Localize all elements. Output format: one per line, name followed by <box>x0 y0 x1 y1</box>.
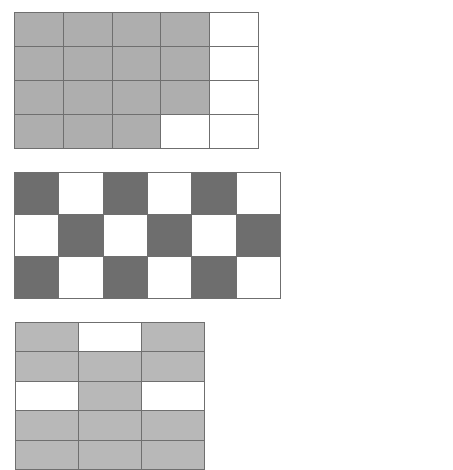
unshaded-cell <box>161 115 210 149</box>
shaded-cell <box>237 215 281 257</box>
shaded-cell <box>64 81 113 115</box>
shaded-cell <box>15 173 59 215</box>
shaded-cell <box>148 215 192 257</box>
unshaded-cell <box>15 215 59 257</box>
shaded-cell <box>64 115 113 149</box>
shaded-cell <box>15 81 64 115</box>
shaded-cell <box>79 382 142 411</box>
shaded-cell <box>16 352 79 381</box>
shaded-cell <box>15 115 64 149</box>
shaded-cell <box>161 81 210 115</box>
shaded-cell <box>113 13 162 47</box>
shaded-cell <box>113 115 162 149</box>
shaded-cell <box>142 323 205 352</box>
unshaded-cell <box>59 173 103 215</box>
shaded-cell <box>16 323 79 352</box>
shaded-cell <box>142 352 205 381</box>
unshaded-cell <box>210 115 259 149</box>
shaded-cell <box>192 257 236 299</box>
grid-6x3-dark-grey-checkerboard <box>14 172 281 299</box>
shaded-cell <box>142 411 205 440</box>
shaded-cell <box>15 47 64 81</box>
shaded-cell <box>113 81 162 115</box>
unshaded-cell <box>142 382 205 411</box>
shaded-cell <box>79 441 142 470</box>
shaded-cell <box>64 47 113 81</box>
shaded-cell <box>59 215 103 257</box>
shaded-cell <box>79 411 142 440</box>
unshaded-cell <box>237 257 281 299</box>
unshaded-cell <box>148 173 192 215</box>
shaded-cell <box>192 173 236 215</box>
unshaded-cell <box>104 215 148 257</box>
unshaded-cell <box>210 81 259 115</box>
unshaded-cell <box>210 13 259 47</box>
shaded-cell <box>142 441 205 470</box>
shaded-cell <box>16 411 79 440</box>
shaded-cell <box>15 257 59 299</box>
shaded-cell <box>104 173 148 215</box>
grid-5x4-medium-grey <box>14 12 259 149</box>
grid-3x5-light-grey <box>15 322 205 470</box>
unshaded-cell <box>192 215 236 257</box>
unshaded-cell <box>79 323 142 352</box>
shaded-cell <box>161 47 210 81</box>
shaded-cell <box>104 257 148 299</box>
shaded-cell <box>16 441 79 470</box>
unshaded-cell <box>16 382 79 411</box>
shaded-cell <box>161 13 210 47</box>
unshaded-cell <box>59 257 103 299</box>
shaded-cell <box>64 13 113 47</box>
shaded-cell <box>15 13 64 47</box>
shaded-cell <box>113 47 162 81</box>
unshaded-cell <box>148 257 192 299</box>
unshaded-cell <box>237 173 281 215</box>
unshaded-cell <box>210 47 259 81</box>
shaded-cell <box>79 352 142 381</box>
